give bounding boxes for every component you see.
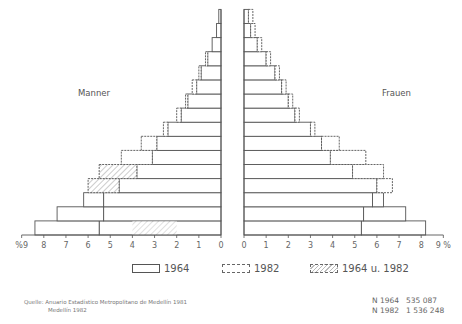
legend-label: 1982	[254, 263, 279, 274]
male-bar-common	[104, 207, 221, 221]
total-1982: N 1982 1 536 248	[372, 306, 444, 316]
female-bar-common	[244, 122, 310, 136]
female-bar-diff	[364, 207, 406, 221]
x-tick-label: 3	[152, 241, 157, 250]
male-bar-diff	[199, 66, 201, 80]
source-line-2: Medellín 1982	[24, 306, 187, 314]
female-bar-diff	[275, 66, 279, 80]
male-bar-diff	[88, 179, 119, 193]
legend-1982: 1982	[222, 262, 279, 274]
female-bar-common	[244, 150, 330, 164]
male-bar-diff	[205, 52, 207, 66]
female-bar-common	[244, 193, 372, 207]
source-line-1: Quelle: Anuario Estadístico Metropolitan…	[24, 298, 187, 306]
male-bar-diff	[35, 221, 99, 235]
female-bar-common	[244, 165, 353, 179]
x-tick-label: 5	[352, 241, 357, 250]
legend-both: 1964 u. 1982	[310, 262, 409, 274]
solid-swatch-icon	[132, 264, 160, 273]
total-1964: N 1964 535 087	[372, 296, 444, 306]
female-bar-diff	[322, 136, 340, 150]
x-tick-label: 1	[196, 241, 201, 250]
male-bar-diff	[192, 80, 196, 94]
female-bar-diff	[266, 52, 270, 66]
male-bar-diff	[57, 207, 104, 221]
female-bar-common	[244, 207, 364, 221]
female-bar-common	[244, 66, 275, 80]
male-bar-common	[119, 179, 221, 193]
x-tick-label: 2	[286, 241, 291, 250]
female-bar-diff	[288, 94, 292, 108]
legend-label: 1964 u. 1982	[342, 263, 409, 274]
male-bar-common	[152, 150, 221, 164]
female-bar-common	[244, 136, 322, 150]
female-bar-common	[244, 24, 251, 38]
male-bar-diff	[121, 150, 152, 164]
male-bar-diff	[186, 94, 188, 108]
x-tick-label: 4	[330, 241, 335, 250]
male-bar-common	[168, 122, 221, 136]
male-bar-common	[188, 94, 221, 108]
legend-label: 1964	[164, 263, 189, 274]
female-bar-diff	[310, 122, 314, 136]
x-tick-label: 8	[41, 241, 46, 250]
female-bar-diff	[372, 193, 383, 207]
x-tick-label: 2	[174, 241, 179, 250]
hatched-swatch-icon	[310, 264, 338, 273]
total-value: 1 536 248	[406, 306, 444, 316]
female-bar-diff	[295, 108, 299, 122]
x-tick-label: 6	[374, 241, 379, 250]
female-bar-common	[244, 9, 248, 23]
totals-block: N 1964 535 087 N 1982 1 536 248	[372, 296, 444, 316]
female-bar-common	[244, 108, 295, 122]
female-bar-common	[244, 52, 266, 66]
legend-1964: 1964	[132, 262, 189, 274]
x-tick-label: 8	[419, 241, 424, 250]
female-bar-diff	[353, 165, 384, 179]
female-bar-common	[244, 221, 361, 235]
male-bar-common	[181, 108, 221, 122]
female-bar-diff	[257, 38, 261, 52]
women-label: Frauen	[382, 88, 411, 98]
female-bar-diff	[251, 24, 255, 38]
source-note: Quelle: Anuario Estadístico Metropolitan…	[24, 298, 187, 314]
male-bar-diff	[163, 122, 167, 136]
x-tick-label: 0	[218, 241, 223, 250]
x-tick-label: %9	[15, 241, 28, 250]
male-bar-common	[104, 193, 221, 207]
female-bar-diff	[330, 150, 365, 164]
x-tick-label: 7	[397, 241, 402, 250]
female-bar-common	[244, 94, 288, 108]
female-bar-common	[244, 38, 257, 52]
male-bar-diff	[141, 136, 157, 150]
female-bar-common	[244, 179, 377, 193]
men-label: Manner	[78, 88, 110, 98]
female-bar-common	[244, 80, 282, 94]
x-tick-label: 1	[264, 241, 269, 250]
male-bar-common	[197, 80, 221, 94]
female-bar-diff	[248, 9, 252, 23]
male-bar-diff	[84, 193, 104, 207]
male-bar-diff	[177, 108, 181, 122]
male-bar-common	[217, 24, 221, 38]
male-bar-common	[137, 165, 221, 179]
x-tick-label: 3	[308, 241, 313, 250]
male-bar-common	[201, 66, 221, 80]
total-label: N 1964	[372, 296, 406, 306]
female-bar-diff	[377, 179, 393, 193]
x-tick-label: 0	[241, 241, 246, 250]
x-tick-label: 7	[63, 241, 68, 250]
male-bar-common	[212, 38, 221, 52]
x-tick-label: 9 %	[436, 241, 452, 250]
x-tick-label: 4	[130, 241, 135, 250]
male-bar-common	[157, 136, 221, 150]
total-value: 535 087	[406, 296, 437, 306]
male-bar-common	[208, 52, 221, 66]
population-pyramid-chart: %98765432100123456789 %	[0, 0, 462, 260]
x-tick-label: 5	[108, 241, 113, 250]
dashed-swatch-icon	[222, 264, 250, 273]
total-label: N 1982	[372, 306, 406, 316]
male-bar-diff	[99, 165, 137, 179]
x-tick-label: 6	[86, 241, 91, 250]
female-bar-diff	[282, 80, 286, 94]
